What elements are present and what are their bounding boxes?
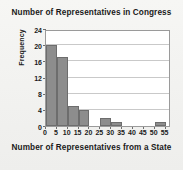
x-tick-mark (132, 127, 133, 129)
chart-title: Number of Representatives in Congress (0, 8, 183, 18)
bar-series (46, 31, 169, 126)
plot-area (45, 30, 170, 127)
bar (57, 57, 68, 126)
x-tick-mark (165, 127, 166, 129)
x-tick-mark (88, 127, 89, 129)
bar (100, 118, 111, 126)
y-tick-label: 12 (28, 75, 42, 82)
y-axis-label: Frequency (18, 18, 25, 78)
x-tick-mark (154, 127, 155, 129)
x-tick-label: 55 (157, 129, 173, 137)
x-tick-mark (121, 127, 122, 129)
x-tick-mark (99, 127, 100, 129)
x-tick-mark (56, 127, 57, 129)
bar (68, 106, 79, 126)
x-tick-mark (143, 127, 144, 129)
y-tick-label: 4 (28, 107, 42, 114)
bar (111, 122, 122, 126)
y-axis-ticks: 04812162024 (26, 30, 42, 127)
x-tick-mark (110, 127, 111, 129)
y-tick-label: 20 (28, 43, 42, 50)
x-tick-mark (67, 127, 68, 129)
y-tick-label: 16 (28, 59, 42, 66)
y-tick-label: 24 (28, 27, 42, 34)
bar (155, 122, 166, 126)
x-tick-mark (78, 127, 79, 129)
x-axis-ticks: 0510152025303540455055 (45, 127, 170, 139)
y-tick-label: 8 (28, 91, 42, 98)
histogram-figure: Number of Representatives in Congress Fr… (0, 0, 183, 170)
x-axis-label: Number of Representatives from a State (0, 143, 183, 153)
x-tick-mark (45, 127, 46, 129)
bar (79, 110, 90, 126)
bar (46, 45, 57, 126)
